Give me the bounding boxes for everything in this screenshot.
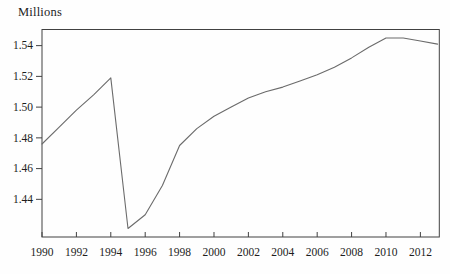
x-tick-label: 1998 [168, 246, 191, 258]
data-line [42, 38, 438, 229]
x-tick-label: 2002 [237, 246, 260, 258]
x-tick-label: 1996 [134, 246, 157, 258]
x-tick-label: 2010 [374, 246, 397, 258]
y-tick-label: 1.46 [13, 162, 33, 174]
x-tick-label: 2000 [202, 246, 225, 258]
y-axis-title: Millions [18, 5, 62, 20]
x-tick-label: 2008 [340, 246, 363, 258]
chart-figure: Millions 1.441.461.481.501.521.541990199… [0, 0, 450, 274]
y-tick-label: 1.52 [13, 70, 33, 82]
line-chart: 1.441.461.481.501.521.541990199219941996… [0, 0, 450, 274]
x-tick-label: 2006 [306, 246, 329, 258]
plot-border [42, 30, 439, 238]
y-tick-label: 1.48 [13, 132, 33, 144]
y-tick-label: 1.44 [13, 193, 33, 205]
x-tick-label: 2004 [271, 246, 294, 258]
x-tick-label: 1992 [65, 246, 88, 258]
x-tick-label: 2012 [409, 246, 432, 258]
x-tick-label: 1994 [99, 246, 122, 258]
x-tick-label: 1990 [31, 246, 54, 258]
y-tick-label: 1.54 [13, 39, 33, 51]
y-tick-label: 1.50 [13, 101, 33, 113]
